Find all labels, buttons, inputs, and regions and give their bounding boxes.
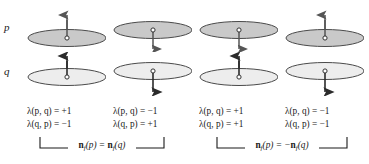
lambda-block-col4: λ(p, q) = −1 λ(q, p) = −1 xyxy=(285,105,329,130)
row-label-p: p xyxy=(4,22,10,33)
vertex-marker xyxy=(323,69,327,73)
facet-diagram-q-col3 xyxy=(194,52,278,96)
facet-diagram-p-col1 xyxy=(22,8,106,52)
bracket-annotation-right: nf(p) = −nf(q) xyxy=(215,136,349,158)
bracket-annotation-left: nf(p) = nf(q) xyxy=(38,136,166,158)
facet-p-col3-graphic xyxy=(194,8,278,52)
lambda-block-col1: λ(p, q) = +1 λ(q, p) = −1 xyxy=(27,105,71,130)
bracket-right-arg-q: (q) xyxy=(298,140,309,150)
bracket-right-eq: (p) = − xyxy=(263,140,291,150)
lambda-qp-col4: λ(q, p) = −1 xyxy=(285,118,329,131)
lambda-pq-col2: λ(p, q) = −1 xyxy=(113,105,157,118)
vertex-marker xyxy=(151,28,155,32)
vertex-marker xyxy=(151,69,155,73)
lambda-qp-col3: λ(q, p) = +1 xyxy=(199,118,243,131)
lambda-qp-col2: λ(q, p) = +1 xyxy=(113,118,157,131)
vertex-marker xyxy=(65,36,69,40)
facet-diagram-q-col2 xyxy=(108,52,192,96)
vertex-marker xyxy=(65,75,69,79)
facet-p-col2-graphic xyxy=(108,8,192,52)
row-label-q: q xyxy=(4,66,10,77)
facet-diagram-p-col4 xyxy=(280,8,364,52)
vertex-marker xyxy=(237,28,241,32)
lambda-block-col3: λ(p, q) = +1 λ(q, p) = +1 xyxy=(199,105,243,130)
facet-p-col1-graphic xyxy=(22,8,106,52)
facet-diagram-p-col2 xyxy=(108,8,192,52)
bracket-right-label: nf(p) = −nf(q) xyxy=(215,140,349,152)
vertex-marker xyxy=(237,75,241,79)
lambda-pq-col3: λ(p, q) = +1 xyxy=(199,105,243,118)
lambda-qp-col1: λ(q, p) = −1 xyxy=(27,118,71,131)
facet-q-col4-graphic xyxy=(280,52,364,96)
facet-q-col3-graphic xyxy=(194,52,278,96)
facet-diagram-q-col4 xyxy=(280,52,364,96)
lambda-pq-col1: λ(p, q) = +1 xyxy=(27,105,71,118)
bracket-left-eq: (p) = xyxy=(86,140,108,150)
bracket-left-arg-q: (q) xyxy=(115,140,126,150)
facet-q-col2-graphic xyxy=(108,52,192,96)
facet-diagram-q-col1 xyxy=(22,52,106,96)
facet-p-col4-graphic xyxy=(280,8,364,52)
vertex-marker xyxy=(323,36,327,40)
facet-orientation-figure: p q xyxy=(0,0,369,164)
facet-q-col1-graphic xyxy=(22,52,106,96)
lambda-block-col2: λ(p, q) = −1 λ(q, p) = +1 xyxy=(113,105,157,130)
facet-diagram-p-col3 xyxy=(194,8,278,52)
lambda-pq-col4: λ(p, q) = −1 xyxy=(285,105,329,118)
bracket-left-label: nf(p) = nf(q) xyxy=(38,140,166,152)
